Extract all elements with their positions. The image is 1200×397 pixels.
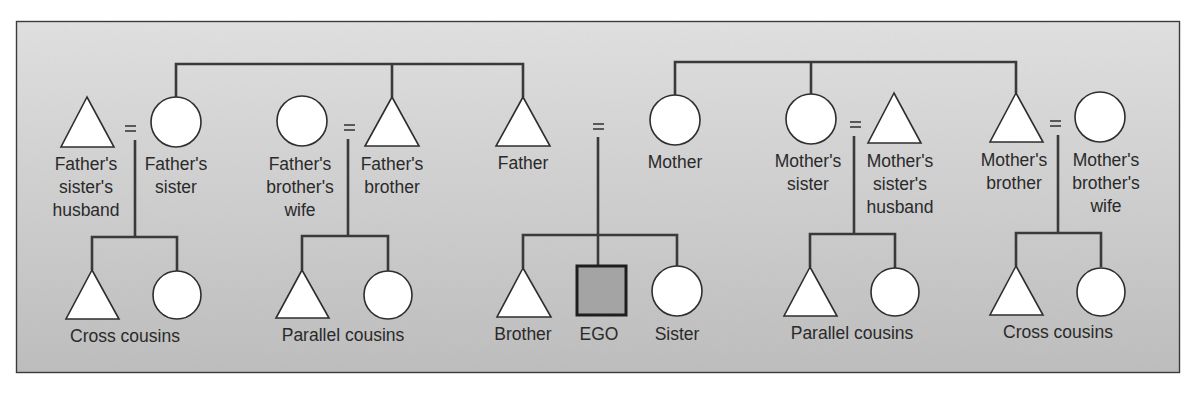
label-line: Mother's	[867, 151, 934, 171]
ego-square-icon	[577, 266, 626, 315]
female-circle-icon	[871, 268, 919, 316]
label-line: Father's	[145, 154, 208, 174]
female-circle-icon	[364, 271, 412, 319]
label-brother: Brother	[494, 324, 552, 344]
female-circle-icon	[153, 271, 201, 319]
label-line: Father's	[361, 154, 424, 174]
label-line: Father's	[269, 154, 332, 174]
label-line: brother	[364, 177, 420, 197]
label-line: Father's	[55, 154, 118, 174]
label-line: sister's	[59, 177, 113, 197]
label-line: husband	[866, 197, 933, 217]
label-line: sister's	[873, 174, 927, 194]
label-sister: Sister	[655, 324, 700, 344]
label-line: wife	[283, 200, 315, 220]
label-line: sister	[155, 177, 197, 197]
kinship-diagram: Father's sister's husband Father's siste…	[0, 0, 1200, 397]
female-circle-icon	[1075, 92, 1125, 142]
label-line: brother's	[1072, 173, 1140, 193]
label-cross-cousins-right: Cross cousins	[1003, 322, 1113, 342]
label-parallel-cousins-right: Parallel cousins	[791, 323, 914, 343]
female-circle-icon	[277, 96, 327, 146]
label-line: Mother's	[981, 150, 1048, 170]
female-circle-icon	[786, 94, 836, 144]
label-cross-cousins-left: Cross cousins	[70, 326, 180, 346]
label-father: Father	[498, 153, 549, 173]
label-line: Mother's	[1073, 150, 1140, 170]
female-circle-icon	[650, 95, 700, 145]
label-parallel-cousins-left: Parallel cousins	[282, 325, 405, 345]
label-ego: EGO	[580, 324, 619, 344]
label-line: brother's	[266, 177, 334, 197]
female-circle-icon	[652, 266, 702, 316]
female-circle-icon	[1077, 268, 1125, 316]
label-line: Mother's	[775, 151, 842, 171]
label-mother: Mother	[648, 152, 703, 172]
label-line: sister	[787, 174, 829, 194]
label-line: wife	[1089, 196, 1121, 216]
label-mothers-sisters-husband: Mother's sister's husband	[866, 151, 933, 217]
label-line: brother	[986, 173, 1042, 193]
female-circle-icon	[151, 97, 201, 147]
label-line: husband	[52, 200, 119, 220]
label-fathers-sisters-husband: Father's sister's husband	[52, 154, 119, 220]
